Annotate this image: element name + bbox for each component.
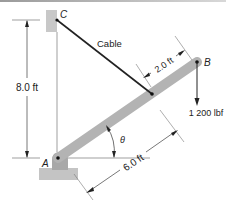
point-label-B: B bbox=[204, 57, 211, 68]
dim-label-8ft: 8.0 ft bbox=[16, 82, 38, 93]
cable-attachment-point bbox=[150, 92, 154, 96]
arrowhead-2ft-left-icon bbox=[143, 73, 150, 79]
arrowhead-down-icon bbox=[25, 151, 29, 158]
dim-ext-2ft-right bbox=[175, 36, 192, 60]
cable-label: Cable bbox=[97, 38, 122, 49]
point-label-C: C bbox=[60, 9, 68, 20]
pin-A bbox=[56, 156, 60, 160]
dim-ext-6ft-left bbox=[74, 174, 93, 200]
bar-AB bbox=[58, 62, 197, 158]
dim-label-2ft: 2.0 ft bbox=[153, 55, 176, 75]
cable bbox=[57, 20, 152, 94]
dim-ext-6ft-right bbox=[160, 110, 184, 142]
angle-label-theta: θ bbox=[120, 135, 125, 145]
arrowhead-6ft-left-icon bbox=[86, 187, 94, 193]
arrowhead-up-icon bbox=[25, 20, 29, 27]
load-label: 1 200 lbf bbox=[189, 108, 224, 118]
point-label-A: A bbox=[41, 158, 49, 169]
dim-label-6ft: 6.0 ft bbox=[121, 152, 146, 174]
truss-diagram: 8.0 ft 1 200 lbf 2.0 ft 6.0 ft θ C A B C… bbox=[0, 0, 226, 224]
arrowhead-2ft-right-icon bbox=[178, 50, 185, 56]
angle-arrowhead-icon bbox=[112, 151, 116, 158]
wall-support-C bbox=[46, 10, 57, 32]
load-arrowhead-icon bbox=[195, 98, 200, 106]
pin-C bbox=[55, 18, 58, 21]
dim-line-6ft-right bbox=[146, 131, 176, 152]
